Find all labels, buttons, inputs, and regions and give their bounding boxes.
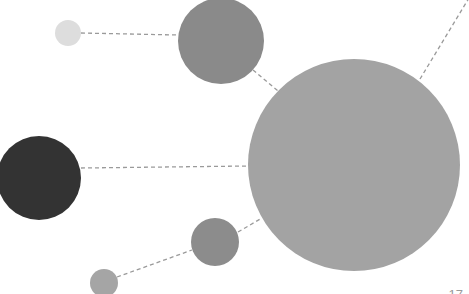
node-small-bottom [90, 269, 118, 294]
node-dark-left [0, 136, 81, 220]
edge-large-to-offscreen [420, 0, 469, 79]
edge-medium-bottom-to-large [238, 218, 262, 232]
edge-small-bottom-to-medium-bottom [117, 250, 192, 277]
edge-medium-top-to-large [253, 70, 278, 91]
edge-dark-left-to-large [81, 166, 249, 168]
edge-small-light-to-medium-top [81, 33, 178, 35]
node-medium-top [178, 0, 264, 84]
page-number: 17 [449, 287, 463, 294]
node-small-light [55, 20, 81, 46]
diagram-canvas: 17 [0, 0, 469, 294]
bubble-network-diagram [0, 0, 469, 294]
node-large-center [248, 59, 460, 271]
node-medium-bottom [191, 218, 239, 266]
